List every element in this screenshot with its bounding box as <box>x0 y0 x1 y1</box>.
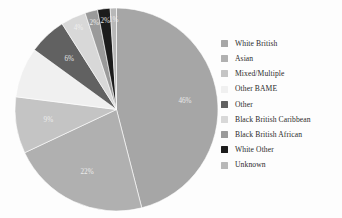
legend-item[interactable]: Unknown <box>221 158 339 173</box>
pie-slice-label: 46% <box>178 97 191 105</box>
pie-svg: 46%22%9%6%4%2%2%1% <box>13 6 220 213</box>
pie-slice-label: 1% <box>109 16 119 24</box>
legend-item-label: Other BAME <box>235 85 277 93</box>
legend-item[interactable]: White Other <box>221 142 339 157</box>
pie-slice-label: 6% <box>64 55 74 63</box>
legend-swatch-icon <box>221 116 228 123</box>
legend-item[interactable]: Mixed/Multiple <box>221 66 339 81</box>
legend-item[interactable]: Asian <box>221 51 339 66</box>
pie-chart: 46%22%9%6%4%2%2%1% <box>13 6 220 213</box>
legend-swatch-icon <box>221 162 228 169</box>
chart-legend: White BritishAsianMixed/MultipleOther BA… <box>221 36 339 173</box>
pie-slice-label: 2% <box>89 19 99 27</box>
legend-item-label: Asian <box>235 55 253 63</box>
legend-swatch-icon <box>221 131 228 138</box>
legend-swatch-icon <box>221 55 228 62</box>
legend-swatch-icon <box>221 70 228 77</box>
legend-item[interactable]: Other <box>221 97 339 112</box>
legend-swatch-icon <box>221 146 228 153</box>
pie-slice-label: 9% <box>44 116 54 124</box>
legend-item-label: Black British African <box>235 131 302 139</box>
legend-item-label: White British <box>235 40 277 48</box>
chart-figure: 46%22%9%6%4%2%2%1% White BritishAsianMix… <box>0 0 342 218</box>
legend-item-label: Mixed/Multiple <box>235 70 285 78</box>
pie-slice-group <box>15 8 218 211</box>
legend-item[interactable]: White British <box>221 36 339 51</box>
legend-item-label: White Other <box>235 146 274 154</box>
legend-item-label: Other <box>235 101 253 109</box>
legend-swatch-icon <box>221 101 228 108</box>
legend-swatch-icon <box>221 40 228 47</box>
legend-item-label: Unknown <box>235 161 266 169</box>
pie-slice-label: 4% <box>74 24 84 32</box>
pie-slice-label: 22% <box>81 168 94 176</box>
legend-item[interactable]: Other BAME <box>221 82 339 97</box>
legend-item[interactable]: Black British African <box>221 127 339 142</box>
legend-item[interactable]: Black British Caribbean <box>221 112 339 127</box>
legend-item-label: Black British Caribbean <box>235 116 311 124</box>
legend-swatch-icon <box>221 86 228 93</box>
